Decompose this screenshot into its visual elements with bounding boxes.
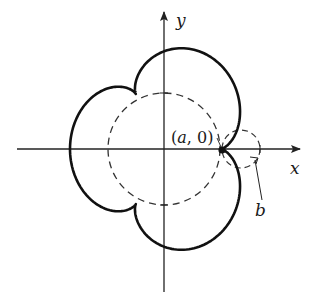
point-a-0	[218, 146, 225, 153]
x-axis-label: x	[290, 158, 300, 178]
b-pointer-line	[255, 160, 262, 200]
point-label: (a, 0)	[171, 128, 213, 147]
epicycloid-diagram: y x (a, 0) b	[0, 0, 315, 299]
b-label: b	[255, 200, 266, 220]
y-axis-label: y	[175, 10, 186, 30]
